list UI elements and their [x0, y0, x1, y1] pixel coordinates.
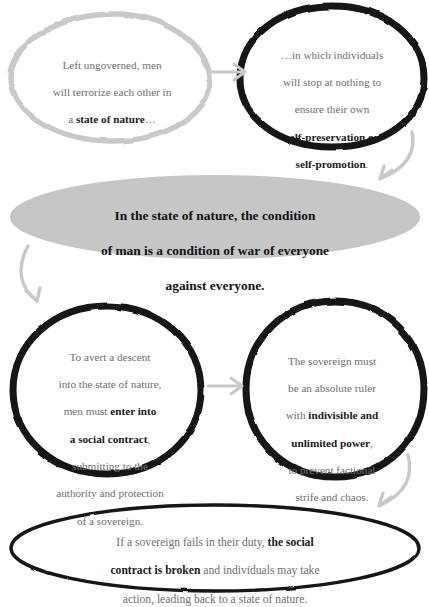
node-4-line-6: authority and protection: [56, 487, 164, 499]
node-5-line-6: strife and chaos.: [295, 491, 368, 503]
node-5-line-5: to prevent factional: [289, 464, 376, 476]
node-5-line-1: The sovereign must: [288, 355, 376, 367]
node-3-line-1: In the state of nature, the condition: [115, 208, 316, 223]
node-2-emphasis-2: self-promotion: [296, 158, 366, 170]
node-1-line-1: Left ungoverned, men: [62, 59, 161, 71]
node-5-line-2: be an absolute ruler: [288, 382, 376, 394]
node-1-line-2: will terrorize each other in: [53, 86, 172, 98]
arrow-node4-to-node5: [208, 378, 242, 394]
node-1-text: Left ungoverned, men will terrorize each…: [22, 45, 202, 127]
node-5-emphasis-1: indivisible and: [308, 409, 378, 421]
node-6-line-2-suffix: and individuals may take: [200, 564, 319, 577]
node-4-emphasis-2: a social contract: [70, 433, 148, 445]
node-6-line-3: action, leading back to a state of natur…: [123, 593, 307, 606]
node-2-line-1: …in which individuals: [281, 49, 384, 61]
node-4-line-2: into the state of nature,: [59, 378, 162, 390]
node-5-text: The sovereign must be an absolute ruler …: [252, 341, 412, 505]
node-2-period: .: [366, 158, 369, 170]
node-3-text: In the state of nature, the condition of…: [55, 190, 375, 295]
node-5-line-3-prefix: with: [286, 409, 309, 421]
node-1-emphasis: state of nature: [76, 113, 145, 125]
arrow-node3-to-node4: [21, 246, 40, 301]
node-3-line-2: of man is a condition of war of everyone: [101, 243, 329, 258]
node-4-line-5: submitting to the: [72, 460, 148, 472]
node-4-line-1: To avert a descent: [70, 351, 151, 363]
node-1-line-3-prefix: a: [68, 113, 76, 125]
node-6-text: If a sovereign fails in their duty, the …: [55, 522, 375, 607]
node-6-line-1-prefix: If a sovereign fails in their duty,: [116, 536, 267, 549]
node-6-emphasis-2: contract is broken: [110, 564, 200, 577]
node-4-comma: ,: [147, 433, 150, 445]
node-3-line-3: against everyone.: [166, 278, 265, 293]
node-4-text: To avert a descent into the state of nat…: [22, 337, 198, 528]
node-2-line-3: ensure their own: [295, 103, 370, 115]
node-5-comma: ,: [370, 437, 373, 449]
node-2-line-2: will stop at nothing to: [283, 76, 381, 88]
node-1-line-3-suffix: …: [145, 113, 156, 125]
node-6-emphasis-1: the social: [268, 536, 314, 549]
node-2-emphasis-1: self-preservation or: [285, 131, 378, 143]
node-5-emphasis-2: unlimited power: [291, 437, 370, 449]
node-2-text: …in which individuals will stop at nothi…: [252, 35, 412, 172]
node-4-line-3-prefix: men must: [64, 405, 111, 417]
node-4-emphasis-1: enter into: [110, 405, 156, 417]
